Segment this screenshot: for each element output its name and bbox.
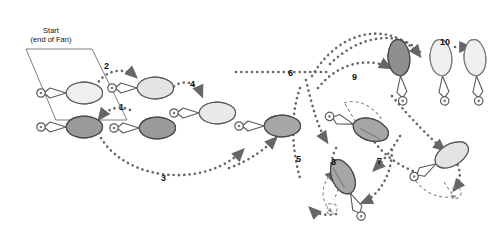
step-label-5: 5 [296,155,301,164]
path-5-fan-b [306,80,327,142]
path-2-arrow [96,71,136,86]
racket-pos-4 [170,102,236,124]
racket-pos-1b [110,117,176,139]
path-5-arrow [229,138,276,168]
rotation-guide-c [412,176,456,197]
step-label-6: 6 [288,69,293,78]
racket-pos-7 [405,136,473,187]
step-label-2: 2 [104,62,109,71]
step-label-3: 3 [161,174,166,183]
path-8-arrow-c [310,208,336,215]
diagram-canvas: Start (end of Fan) 1 2 3 4 5 6 7 8 9 10 [0,0,500,243]
racket-pos-10a [429,39,456,106]
racket-start [37,82,103,104]
path-3-arrow [101,138,243,175]
start-annotation: Start (end of Fan) [20,26,82,45]
step-label-4: 4 [190,80,195,89]
path-4-arrow [170,82,202,96]
rotation-guide-c2 [444,182,452,194]
racket-pos-8-rot [322,105,391,146]
step-label-1: 1 [119,103,124,112]
racket-pos-2 [108,77,174,99]
racket-pos-9 [387,39,414,106]
start-annotation-line2: (end of Fan) [20,35,82,44]
racket-pos-1a [37,116,103,138]
step-label-9: 9 [352,73,357,82]
rotation-guide-a [344,102,382,120]
racket-pos-10b [463,39,490,106]
step-label-8: 8 [331,158,336,167]
start-annotation-line1: Start [20,26,82,35]
racket-pos-5 [235,115,301,137]
step-label-10: 10 [440,38,450,47]
step-label-7: 7 [377,157,382,166]
